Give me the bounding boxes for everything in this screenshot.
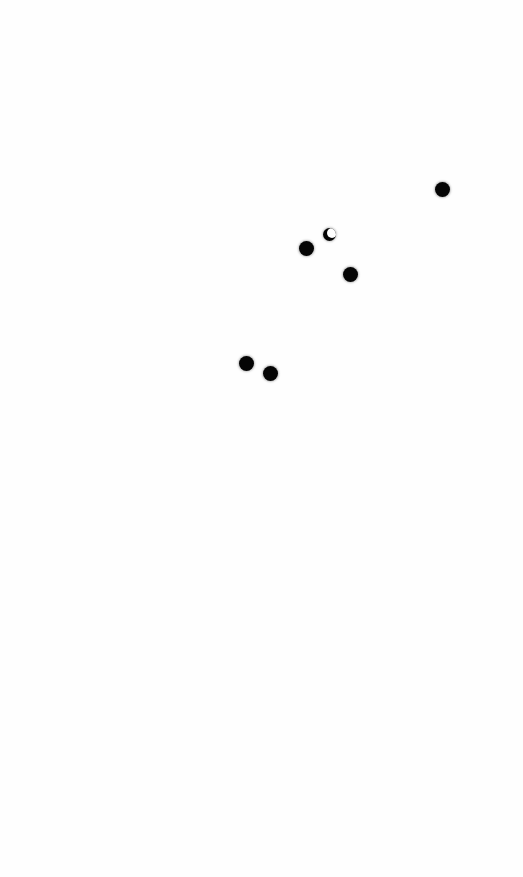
black-dot xyxy=(435,182,450,197)
black-dot xyxy=(263,366,278,381)
white-background xyxy=(0,0,523,877)
crescent-dot xyxy=(323,228,336,241)
black-dot xyxy=(343,267,358,282)
black-dot xyxy=(239,356,254,371)
black-dot xyxy=(299,241,314,256)
